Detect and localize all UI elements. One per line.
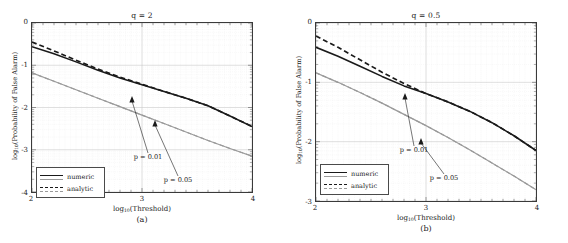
annotation-label: p = 0.05 <box>164 176 193 184</box>
panel-b-x-axis-label: log10(Threshold) <box>284 214 568 222</box>
legend-label-numeric: numeric <box>67 173 94 181</box>
y-tick-label: -2 <box>301 138 312 146</box>
y-tick-label: -1 <box>17 61 28 69</box>
y-label-prefix: log <box>295 154 303 164</box>
figure-two-panel: q = 2 log10(Probability of False Alarm) … <box>0 0 568 243</box>
x-label-prefix: log <box>397 214 408 222</box>
x-tick-label: 2 <box>313 204 317 212</box>
y-tick-label: -3 <box>17 146 28 154</box>
y-tick-label: -2 <box>17 104 28 112</box>
legend-key-numeric <box>40 172 63 182</box>
legend-key-analytic <box>324 181 347 191</box>
y-tick-label: -4 <box>17 189 28 197</box>
x-tick-label: 3 <box>424 204 428 212</box>
y-tick-label: 0 <box>17 18 28 26</box>
legend-label-analytic: analytic <box>351 182 377 190</box>
panel-a-title: q = 2 <box>0 11 284 20</box>
legend-item-numeric: numeric <box>40 171 100 183</box>
legend-item-numeric: numeric <box>324 168 384 180</box>
panel-a: q = 2 log10(Probability of False Alarm) … <box>0 0 284 243</box>
y-tick-label: 0 <box>301 18 312 26</box>
panel-b-y-axis-label: log10(Probability of False Alarm) <box>295 56 303 164</box>
annotation-label: p = 0.05 <box>430 174 459 182</box>
legend-key-numeric <box>324 169 347 179</box>
panel-b-title: q = 0.5 <box>284 11 568 20</box>
x-tick-label: 3 <box>140 195 144 203</box>
legend-key-analytic <box>40 184 63 194</box>
x-label-suffix: (Threshold) <box>130 205 171 213</box>
x-tick-label: 4 <box>251 195 255 203</box>
panel-a-subcaption: (a) <box>0 215 284 224</box>
panel-a-x-axis-label: log10(Threshold) <box>0 205 284 213</box>
x-label-suffix: (Threshold) <box>414 214 455 222</box>
y-tick-label: -3 <box>301 198 312 206</box>
panel-b-subcaption: (b) <box>284 224 568 233</box>
annotation-label: p = 0.01 <box>134 153 163 161</box>
legend-item-analytic: analytic <box>324 180 384 192</box>
legend-label-numeric: numeric <box>351 170 378 178</box>
panel-b-legend: numeric analytic <box>320 164 389 195</box>
y-label-suffix: (Probability of False Alarm) <box>295 56 303 148</box>
x-tick-label: 2 <box>29 195 33 203</box>
legend-label-analytic: analytic <box>67 185 93 193</box>
legend-item-analytic: analytic <box>40 183 100 195</box>
x-label-prefix: log <box>113 205 124 213</box>
y-label-sub: 10 <box>298 148 303 154</box>
panel-a-legend: numeric analytic <box>36 167 105 198</box>
panel-b: q = 0.5 log10(Probability of False Alarm… <box>284 0 568 243</box>
annotation-label: p = 0.01 <box>400 146 429 154</box>
y-tick-label: -1 <box>301 78 312 86</box>
x-tick-label: 4 <box>535 204 539 212</box>
